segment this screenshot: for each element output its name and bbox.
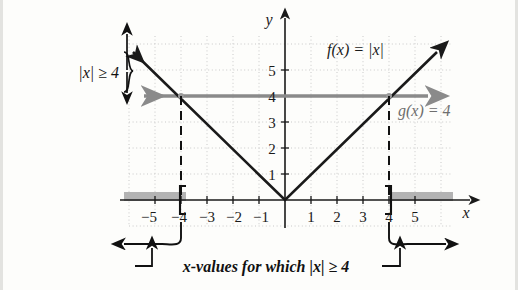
x-tick-label: 5 xyxy=(411,209,419,225)
y-tick-label: 3 xyxy=(268,115,276,131)
f-function-label: f(x) = |x| xyxy=(327,41,384,59)
y-tick-label: 5 xyxy=(268,63,276,79)
x-tick-label: −2 xyxy=(226,209,242,225)
graph-svg: −5 −4 −3 −2 −1 1 2 3 4 5 1 2 3 4 5 y x f… xyxy=(0,0,518,290)
x-tick-label: 3 xyxy=(359,209,367,225)
bottom-label-leader-left xyxy=(135,248,152,266)
y-axis-label: y xyxy=(263,11,273,29)
y-tick-label: 4 xyxy=(268,89,276,105)
bottom-label-leader-right xyxy=(382,248,400,266)
inequality-callout-label: |x| ≥ 4 xyxy=(78,64,119,82)
x-tick-label: 1 xyxy=(307,209,315,225)
y-tick-label: 2 xyxy=(268,141,276,157)
y-tick-label: 1 xyxy=(268,167,276,183)
x-tick-label: −5 xyxy=(141,209,157,225)
x-tick-label: 4 xyxy=(385,209,393,225)
figure-container: −5 −4 −3 −2 −1 1 2 3 4 5 1 2 3 4 5 y x f… xyxy=(0,0,518,290)
x-tick-label: −1 xyxy=(253,209,269,225)
x-tick-labels: −5 −4 −3 −2 −1 1 2 3 4 5 xyxy=(141,209,419,225)
bottom-pointer-right xyxy=(389,222,446,244)
bottom-pointer-left xyxy=(124,222,181,244)
g-function-label: g(x) = 4 xyxy=(398,102,451,120)
bottom-annotation-label: x-values for which |x| ≥ 4 xyxy=(182,258,350,276)
y-tick-labels: 1 2 3 4 5 xyxy=(268,63,276,183)
x-tick-label: −3 xyxy=(199,209,215,225)
x-tick-label: 2 xyxy=(333,209,341,225)
x-tick-label: −4 xyxy=(171,209,187,225)
x-axis-label: x xyxy=(461,204,469,221)
